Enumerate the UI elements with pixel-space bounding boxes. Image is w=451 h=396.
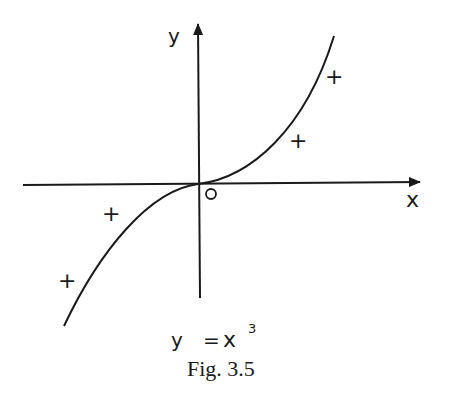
x-axis-label: x xyxy=(406,187,419,212)
y-axis-label: y xyxy=(168,24,180,48)
plus-sign-lower-2: + xyxy=(58,268,76,293)
plus-sign-upper-1: + xyxy=(325,64,343,89)
y-axis xyxy=(198,24,200,298)
x-axis xyxy=(23,182,420,185)
equation-exponent: 3 xyxy=(248,321,256,336)
plus-sign-upper-2: + xyxy=(289,128,307,153)
plus-sign-lower-1: + xyxy=(102,201,120,226)
equation-equals: = xyxy=(203,328,220,352)
origin-marker xyxy=(206,189,216,199)
cubic-graph-diagram: y x + + + + y = x 3 Fig. 3.5 xyxy=(0,0,451,396)
equation-base: x xyxy=(223,327,236,352)
equation-lhs: y xyxy=(171,328,183,352)
figure-caption: Fig. 3.5 xyxy=(187,356,255,381)
